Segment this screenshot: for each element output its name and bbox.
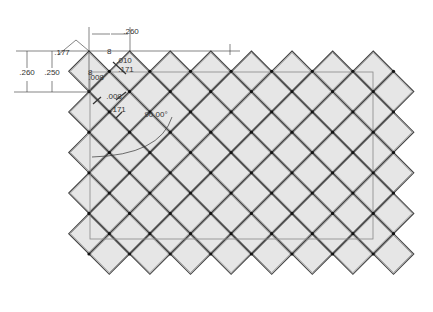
grid-node	[128, 171, 131, 174]
grid-node	[169, 252, 172, 255]
grid-node	[148, 70, 151, 73]
grid-node	[128, 212, 131, 215]
grid-node	[108, 70, 111, 73]
grid-node	[392, 70, 395, 73]
grid-node	[209, 90, 212, 93]
dimension-label: .260	[123, 27, 139, 36]
grid-node	[128, 131, 131, 134]
grid-node	[250, 252, 253, 255]
grid-node	[351, 70, 354, 73]
grid-node	[351, 151, 354, 154]
grid-node	[311, 151, 314, 154]
grid-node	[331, 212, 334, 215]
grid-node	[290, 252, 293, 255]
grid-node	[189, 151, 192, 154]
dimension-label: .260	[19, 68, 35, 77]
dimension-line	[76, 40, 89, 51]
grid-node	[351, 232, 354, 235]
grid-node	[230, 70, 233, 73]
grid-node	[87, 131, 90, 134]
grid-node	[169, 90, 172, 93]
grid-node	[169, 131, 172, 134]
grid-node	[392, 151, 395, 154]
grid-node	[311, 232, 314, 235]
section-marker: 8	[107, 47, 112, 56]
grid-node	[169, 212, 172, 215]
grid-node	[148, 151, 151, 154]
grid-node	[270, 70, 273, 73]
grid-node	[392, 232, 395, 235]
dimension-label: .171	[110, 105, 126, 114]
grid-node	[290, 131, 293, 134]
grid-node	[372, 90, 375, 93]
dimension-label: .010	[116, 56, 132, 65]
grid-node	[331, 171, 334, 174]
grid-node	[250, 171, 253, 174]
grid-node	[250, 212, 253, 215]
grid-node	[270, 151, 273, 154]
grid-node	[230, 232, 233, 235]
dimension-label: .171	[118, 65, 134, 74]
grid-node	[230, 192, 233, 195]
grid-node	[372, 171, 375, 174]
grid-node	[189, 192, 192, 195]
grid-node	[87, 171, 90, 174]
grid-node	[331, 131, 334, 134]
grid-node	[189, 70, 192, 73]
grid-node	[87, 252, 90, 255]
dimension-label: .250	[44, 68, 60, 77]
grid-node	[290, 171, 293, 174]
grid-node	[311, 70, 314, 73]
section-marker: 8	[88, 68, 93, 77]
grid-node	[108, 192, 111, 195]
grid-node	[128, 90, 131, 93]
dimension-label: .177	[54, 48, 70, 57]
grid-node	[290, 90, 293, 93]
grid-node	[372, 212, 375, 215]
grid-node	[209, 212, 212, 215]
grid-node	[290, 212, 293, 215]
grid-node	[372, 131, 375, 134]
grid-node	[331, 252, 334, 255]
tile-pattern-drawing: .260.260.250.177.010.171.008.008.17190.0…	[0, 0, 433, 312]
grid-node	[250, 131, 253, 134]
grid-node	[230, 151, 233, 154]
grid-node	[392, 110, 395, 113]
grid-node	[128, 252, 131, 255]
grid-node	[189, 232, 192, 235]
grid-node	[169, 171, 172, 174]
dimension-label: .008	[106, 92, 122, 101]
grid-node	[148, 192, 151, 195]
grid-node	[351, 110, 354, 113]
dimension-label: 90.00°	[144, 110, 167, 119]
grid-node	[108, 232, 111, 235]
grid-node	[311, 110, 314, 113]
grid-node	[87, 212, 90, 215]
grid-node	[392, 192, 395, 195]
grid-node	[108, 151, 111, 154]
grid-node	[331, 90, 334, 93]
grid-node	[270, 110, 273, 113]
grid-node	[209, 131, 212, 134]
grid-node	[250, 90, 253, 93]
grid-node	[209, 171, 212, 174]
grid-node	[189, 110, 192, 113]
grid-node	[311, 192, 314, 195]
grid-node	[270, 232, 273, 235]
grid-node	[270, 192, 273, 195]
grid-node	[148, 232, 151, 235]
grid-node	[230, 110, 233, 113]
grid-node	[209, 252, 212, 255]
grid-node	[351, 192, 354, 195]
grid-node	[372, 252, 375, 255]
